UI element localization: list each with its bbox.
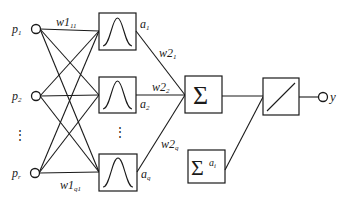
hidden-ellipsis: ⋮	[114, 125, 126, 139]
weight-label-w1-q1: w1q1	[60, 178, 81, 193]
rbf-network-diagram: p1 p2 ⋮ pr w111 w1q1 ⋮ a1 a2 aq w21 w22 …	[0, 0, 351, 204]
svg-text:pr: pr	[11, 166, 21, 181]
input-node-pr: pr	[11, 166, 40, 181]
weight-label-w2-1: w21	[159, 46, 177, 61]
sigma-icon: Σ	[193, 81, 208, 110]
weight-label-w1-11: w111	[56, 15, 77, 30]
svg-text:p1: p1	[11, 22, 22, 37]
normalizer-unit: Σ ai	[188, 150, 225, 183]
hidden-output-a1: a1	[140, 17, 150, 32]
summation-unit: Σ	[185, 76, 222, 113]
hidden-unit-2	[99, 77, 136, 113]
hidden-output-aq: aq	[141, 167, 151, 182]
weight-label-w2-2: w22	[152, 80, 170, 95]
svg-text:p2: p2	[11, 89, 22, 104]
input-node-p1: p1	[11, 22, 41, 37]
svg-text:y: y	[328, 89, 336, 104]
hidden-output-a2: a2	[140, 97, 150, 112]
output-node-y: y	[319, 89, 337, 104]
hidden-unit-q	[99, 154, 137, 191]
weight-label-w2-q: w2q	[161, 137, 179, 152]
input-node-p2: p2	[11, 89, 41, 104]
first-layer-connections	[39, 29, 99, 173]
linear-output-unit	[263, 78, 299, 115]
input-ellipsis: ⋮	[14, 128, 26, 142]
sigma-icon: Σ	[191, 155, 204, 180]
hidden-unit-1	[99, 13, 136, 50]
